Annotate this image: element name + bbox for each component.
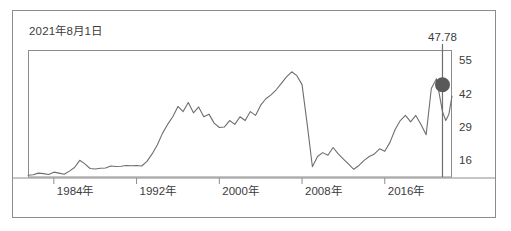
x-tick-marks [13, 178, 495, 184]
x-tick-label: 2008年 [305, 185, 342, 198]
x-tick-label: 1984年 [57, 185, 94, 198]
plot-frame [29, 51, 452, 178]
x-tick-label: 2000年 [222, 185, 259, 198]
y-tick-label: 16 [459, 154, 485, 166]
series-line [28, 72, 452, 175]
y-tick-label: 55 [459, 54, 485, 66]
annotation-marker-dot [435, 77, 450, 92]
chart-figure: 2021年8月1日 47.78 55422916 1984年1992年2000年… [0, 0, 511, 231]
x-tick-label: 2016年 [388, 185, 425, 198]
y-tick-label: 42 [459, 88, 485, 100]
x-tick-label: 1992年 [140, 185, 177, 198]
y-tick-label: 29 [459, 121, 485, 133]
